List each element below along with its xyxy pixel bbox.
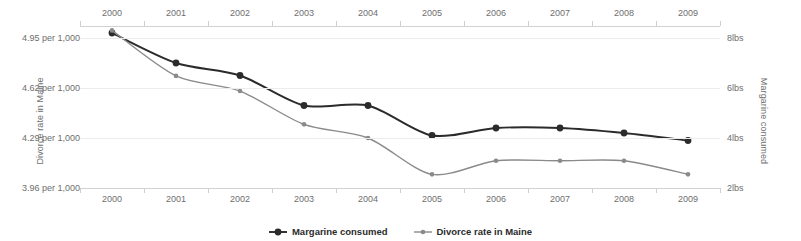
chart-container: Divorce rate in Maine Margarine consumed…	[0, 0, 801, 241]
x-axis-tick-label-top: 2000	[102, 8, 122, 18]
data-point[interactable]	[686, 172, 691, 177]
series-divorce-rate-in-maine	[110, 28, 691, 177]
axis-tick-mark	[208, 21, 209, 26]
x-axis-tick-label-bottom: 2006	[486, 194, 506, 204]
x-axis-tick-label-top: 2005	[422, 8, 442, 18]
data-point[interactable]	[365, 102, 372, 109]
axis-tick-mark	[528, 188, 529, 193]
axis-tick-mark	[336, 21, 337, 26]
x-axis-tick-label-bottom: 2002	[230, 194, 250, 204]
data-point[interactable]	[622, 158, 627, 163]
gridline	[80, 38, 720, 39]
left-axis-tick-label: 4.95 per 1,000	[0, 33, 87, 43]
axis-tick-mark	[592, 188, 593, 193]
x-axis-tick-label-bottom: 2004	[358, 194, 378, 204]
x-axis-tick-label-top: 2008	[614, 8, 634, 18]
legend-label: Divorce rate in Maine	[437, 226, 533, 237]
series-margarine-consumed	[109, 30, 692, 144]
chart-legend: Margarine consumedDivorce rate in Maine	[0, 226, 801, 237]
x-axis-tick-label-bottom: 2008	[614, 194, 634, 204]
axis-tick-mark	[144, 188, 145, 193]
legend-item[interactable]: Divorce rate in Maine	[414, 226, 533, 237]
data-point[interactable]	[302, 122, 307, 127]
right-axis-tick-label: 8lbs	[720, 33, 744, 43]
gridline	[80, 138, 720, 139]
axis-tick-mark	[272, 188, 273, 193]
x-axis-tick-label-top: 2009	[678, 8, 698, 18]
right-axis-title: Margarine consumed	[759, 77, 769, 163]
data-point[interactable]	[110, 28, 115, 33]
data-point[interactable]	[494, 158, 499, 163]
data-point[interactable]	[557, 125, 564, 132]
x-axis-tick-label-top: 2004	[358, 8, 378, 18]
data-point[interactable]	[558, 158, 563, 163]
axis-tick-mark	[464, 21, 465, 26]
axis-tick-mark	[656, 21, 657, 26]
series-line	[112, 30, 688, 174]
left-axis-tick-label: 4.29 per 1,000	[0, 133, 87, 143]
axis-tick-mark	[336, 188, 337, 193]
plot-area	[80, 26, 720, 188]
x-axis-tick-label-bottom: 2000	[102, 194, 122, 204]
legend-item[interactable]: Margarine consumed	[269, 226, 388, 237]
top-axis-line	[80, 26, 720, 27]
right-axis-tick-label: 2lbs	[720, 183, 744, 193]
x-axis-tick-label-bottom: 2009	[678, 194, 698, 204]
data-point[interactable]	[237, 72, 244, 79]
x-axis-tick-label-top: 2006	[486, 8, 506, 18]
x-axis-tick-label-top: 2003	[294, 8, 314, 18]
axis-tick-mark	[400, 21, 401, 26]
gridline	[80, 88, 720, 89]
data-point[interactable]	[238, 89, 243, 94]
right-axis-tick-label: 6lbs	[720, 83, 744, 93]
left-axis-tick-label: 3.96 per 1,000	[0, 183, 87, 193]
axis-tick-mark	[144, 21, 145, 26]
legend-label: Margarine consumed	[292, 226, 388, 237]
series-layer	[80, 26, 720, 188]
right-axis-tick-label: 4lbs	[720, 133, 744, 143]
x-axis-tick-label-top: 2002	[230, 8, 250, 18]
left-axis-tick-label: 4.62 per 1,000	[0, 83, 87, 93]
data-point[interactable]	[301, 102, 308, 109]
series-line	[112, 33, 688, 141]
x-axis-tick-label-bottom: 2003	[294, 194, 314, 204]
data-point[interactable]	[621, 130, 628, 137]
x-axis-tick-label-bottom: 2007	[550, 194, 570, 204]
x-axis-tick-label-top: 2007	[550, 8, 570, 18]
axis-tick-mark	[720, 21, 721, 26]
data-point[interactable]	[430, 172, 435, 177]
data-point[interactable]	[174, 74, 179, 79]
data-point[interactable]	[493, 125, 500, 132]
legend-marker-icon	[414, 227, 432, 237]
legend-marker-icon	[269, 227, 287, 237]
axis-tick-mark	[400, 188, 401, 193]
axis-tick-mark	[208, 188, 209, 193]
x-axis-tick-label-top: 2001	[166, 8, 186, 18]
x-axis-tick-label-bottom: 2005	[422, 194, 442, 204]
data-point[interactable]	[173, 60, 180, 67]
axis-tick-mark	[80, 21, 81, 26]
x-axis-tick-label-bottom: 2001	[166, 194, 186, 204]
axis-tick-mark	[272, 21, 273, 26]
axis-tick-mark	[656, 188, 657, 193]
axis-tick-mark	[592, 21, 593, 26]
axis-tick-mark	[528, 21, 529, 26]
axis-tick-mark	[464, 188, 465, 193]
